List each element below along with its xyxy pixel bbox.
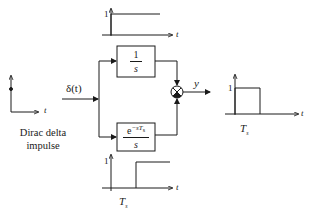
- output-pulse-plot: [225, 75, 298, 115]
- fraction-bar: [130, 61, 142, 62]
- exp-power-sub: s: [143, 127, 145, 133]
- bottom-plot-t-label: t: [176, 183, 179, 192]
- output-plot-y-tick: 1: [228, 84, 233, 93]
- ts-sub: s: [125, 203, 127, 209]
- top-plot-y-tick: 1: [104, 10, 109, 19]
- output-plot-ts-label: Ts: [240, 123, 248, 136]
- bottom-plot-ts-label: Ts: [119, 196, 127, 209]
- dirac-caption: Dirac delta impulse: [4, 126, 82, 152]
- bottom-plot-y-tick: 1: [104, 157, 109, 166]
- delayed-integrator-denominator: s: [117, 139, 155, 150]
- integrator-denominator: s: [117, 63, 155, 74]
- delta-signal-label: δ(t): [66, 83, 82, 94]
- delayed-integrator-transfer-function: e−sTs s: [117, 124, 155, 150]
- summing-junction: [171, 86, 183, 98]
- top-plot-t-label: t: [176, 30, 179, 39]
- dirac-impulse-plot: [10, 76, 39, 112]
- integrator-numerator: 1: [117, 49, 155, 60]
- impulse-point: [10, 88, 13, 91]
- bottom-step-plot: [102, 155, 172, 191]
- fraction-bar: [123, 137, 149, 138]
- delayed-integrator-numerator: e−sTs: [117, 124, 155, 136]
- exp-power: −sT: [131, 124, 142, 132]
- caption-line-2: impulse: [26, 140, 59, 151]
- caption-line-1: Dirac delta: [20, 127, 66, 138]
- dirac-t-axis-label: t: [44, 106, 47, 115]
- top-step-plot: [102, 9, 172, 36]
- output-plot-t-label: t: [301, 109, 304, 118]
- ts-sub: s: [246, 130, 248, 136]
- branch-lines: [99, 61, 116, 137]
- output-y-label: y: [194, 78, 199, 89]
- integrator-transfer-function: 1 s: [117, 49, 155, 74]
- block-output-lines: [155, 61, 177, 135]
